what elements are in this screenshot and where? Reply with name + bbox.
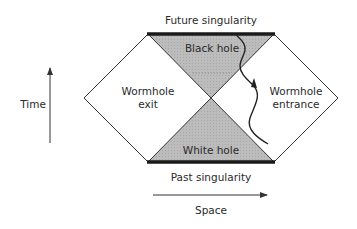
space-axis-label: Space [195, 204, 227, 216]
wormhole-exit-label-line2: exit [138, 98, 158, 110]
wormhole-entrance-label-line1: Wormhole [269, 85, 322, 97]
time-axis-label: Time [19, 98, 46, 110]
black-hole-label: Black hole [185, 42, 239, 54]
wormhole-exit-label-line1: Wormhole [121, 85, 174, 97]
penrose-diagram: Future singularity Past singularity Blac… [0, 0, 357, 229]
future-singularity-label: Future singularity [165, 14, 257, 26]
white-hole-label: White hole [183, 144, 239, 156]
past-singularity-label: Past singularity [171, 171, 252, 183]
wormhole-entrance-label-line2: entrance [273, 98, 320, 110]
